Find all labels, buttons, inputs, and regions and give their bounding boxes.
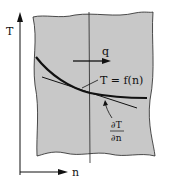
flux-label: q [102, 45, 109, 58]
n-axis-arrow-icon [58, 169, 68, 175]
gradient-denominator: ∂n [111, 133, 122, 143]
heat-conduction-diagram: T n q T = f(n) ∂T ∂n [0, 0, 174, 190]
axis-x-label: n [72, 166, 79, 179]
t-axis-arrow-icon [17, 12, 23, 22]
gradient-numerator: ∂T [111, 120, 122, 130]
curve-label: T = f(n) [100, 74, 143, 87]
axis-y-label: T [6, 25, 14, 38]
